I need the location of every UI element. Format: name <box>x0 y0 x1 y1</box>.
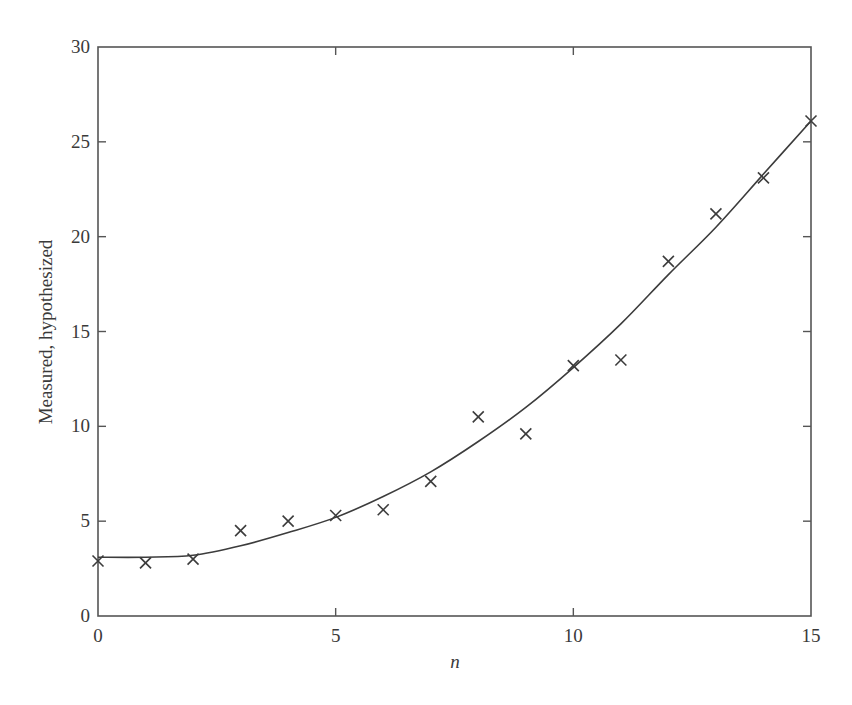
x-axis-label: n <box>450 651 460 672</box>
x-marker-icon <box>568 360 579 371</box>
x-marker-icon <box>473 411 484 422</box>
y-tick-label: 10 <box>71 415 90 436</box>
x-marker-icon <box>710 208 721 219</box>
y-tick-label: 30 <box>71 36 90 57</box>
x-marker-icon <box>615 354 626 365</box>
x-marker-icon <box>663 256 674 267</box>
y-tick-label: 15 <box>71 321 90 342</box>
y-tick-label: 0 <box>81 605 91 626</box>
fit-line <box>98 121 811 557</box>
y-axis-label: Measured, hypothesized <box>35 239 56 424</box>
x-tick-label: 0 <box>93 625 103 646</box>
y-tick-label: 5 <box>81 510 91 531</box>
x-marker-icon <box>378 504 389 515</box>
x-marker-icon <box>235 525 246 536</box>
plot-frame <box>98 47 811 616</box>
x-marker-icon <box>283 516 294 527</box>
x-marker-icon <box>425 476 436 487</box>
x-tick-label: 5 <box>331 625 341 646</box>
y-tick-label: 20 <box>71 226 90 247</box>
x-axis: 051015 <box>93 47 820 646</box>
x-tick-label: 15 <box>802 625 821 646</box>
x-tick-label: 10 <box>564 625 583 646</box>
y-axis: 051015202530 <box>71 36 811 626</box>
measured-points <box>93 115 817 568</box>
hypothesized-curve <box>98 121 811 557</box>
y-tick-label: 25 <box>71 131 90 152</box>
plot-border <box>98 47 811 616</box>
x-marker-icon <box>520 428 531 439</box>
x-marker-icon <box>140 557 151 568</box>
chart-canvas: 051015202530 051015 n Measured, hypothes… <box>0 0 852 705</box>
